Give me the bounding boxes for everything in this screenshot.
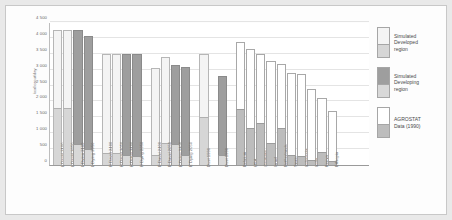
legend-label-line: region	[394, 46, 418, 52]
legend-item: AGROSTATData (1990)	[377, 107, 447, 138]
x-axis-tick-label: Dust 1990	[206, 148, 211, 167]
bar-segment-upper	[112, 54, 121, 153]
legend-label: SimulatedDevelopedregion	[394, 33, 418, 52]
bar: Ethiopia	[328, 111, 337, 165]
legend-swatch-lower	[377, 124, 390, 138]
gridline	[50, 53, 369, 54]
bar-segment-upper	[297, 74, 306, 157]
legend-swatch-upper	[377, 67, 390, 84]
y-axis-tick-label: 2 000	[36, 94, 47, 99]
bar: Israel	[266, 61, 275, 165]
bar: E Dying 2050	[181, 67, 190, 165]
chart-panel: kcal/caput/day 05001 0001 5002 0002 5003…	[5, 5, 447, 215]
legend-swatch	[377, 67, 390, 98]
bar-segment-upper	[73, 30, 82, 145]
legend-label: AGROSTATData (1990)	[394, 116, 421, 129]
bar: Belgium	[236, 42, 245, 165]
bar: H David 2050	[112, 54, 121, 165]
x-axis-tick-label: H Dying 2050	[139, 142, 144, 167]
legend-label-line: Data (1990)	[394, 123, 421, 129]
legend-swatch-lower	[377, 44, 390, 58]
bar: L David 2050	[63, 30, 72, 165]
bar: L Dying 2050	[84, 36, 93, 165]
legend-swatch-upper	[377, 27, 390, 44]
bar-segment-upper	[53, 30, 62, 108]
bar: Dust 1990	[199, 54, 208, 165]
bar: Dust 1990	[218, 76, 227, 165]
bar-segment-upper	[161, 57, 170, 143]
bar: Kenya	[317, 98, 326, 165]
bar: Indonesia	[297, 73, 306, 165]
x-axis-tick-label: L Dying 2050	[90, 142, 95, 167]
bar: H Dying 2100	[122, 54, 131, 165]
legend-swatch	[377, 27, 390, 58]
legend-swatch-upper	[377, 107, 390, 124]
x-axis-tick-label: E Dying 2050	[188, 142, 193, 167]
bar-segment-upper	[102, 54, 111, 153]
bar: H David 2100	[102, 54, 111, 165]
y-axis-tick-label: 4 500	[36, 15, 47, 20]
y-axis-tick-label: 3 500	[36, 46, 47, 51]
bar-segment-upper	[122, 54, 131, 154]
bar: H Dying 2050	[132, 54, 141, 165]
bar: India	[307, 89, 316, 165]
legend-label-line: region	[394, 86, 419, 92]
bar-segment-upper	[256, 54, 265, 122]
gridline	[50, 69, 369, 70]
bar: Netherlands	[277, 64, 286, 165]
bar-segment-upper	[199, 54, 208, 118]
y-axis-tick-label: 4 000	[36, 30, 47, 35]
y-axis-tick-label: 0	[45, 158, 47, 163]
bar-segment-upper	[287, 73, 296, 156]
bar-segment-upper	[307, 89, 316, 161]
y-axis-tick-label: 2 500	[36, 78, 47, 83]
bar: USA	[246, 49, 255, 165]
bar: L Dying 2100	[73, 30, 82, 165]
legend-label-line: AGROSTAT	[394, 116, 421, 122]
gridline	[50, 37, 369, 38]
legend-label-line: Developed	[394, 39, 418, 45]
bar: E David 2100	[151, 68, 160, 165]
plot-area: 05001 0001 5002 0002 5003 0003 5004 0004…	[49, 23, 369, 166]
legend-label: SimulatedDevelopingregion	[394, 73, 419, 92]
y-axis-tick-label: 1 500	[36, 110, 47, 115]
y-axis-tick-label: 500	[40, 142, 47, 147]
bar-segment-upper	[277, 64, 286, 129]
gridline	[50, 21, 369, 22]
bar: Germany	[256, 54, 265, 165]
bar: E David 2050	[161, 57, 170, 165]
bar-segment-upper	[171, 65, 180, 144]
legend-item: SimulatedDevelopedregion	[377, 27, 447, 58]
bar-segment-upper	[84, 36, 93, 149]
bar: L David 2100	[53, 30, 62, 165]
y-axis-tick-label: 1 000	[36, 126, 47, 131]
legend-swatch-lower	[377, 84, 390, 98]
bar-segment-upper	[317, 98, 326, 151]
legend-label-line: Developing	[394, 79, 419, 85]
bar-segment-upper	[266, 61, 275, 142]
bar-segment-upper	[246, 49, 255, 127]
bar: E Dying 2100	[171, 65, 180, 165]
gridline	[50, 85, 369, 86]
bar-segment-upper	[218, 76, 227, 155]
x-axis-tick-label: Ethiopia	[334, 152, 339, 167]
bar-segment-upper	[236, 42, 245, 109]
y-axis-tick-label: 3 000	[36, 62, 47, 67]
bar: Spain	[287, 73, 296, 165]
legend-item: SimulatedDevelopingregion	[377, 67, 447, 98]
chart-legend: SimulatedDevelopedregionSimulatedDevelop…	[377, 27, 447, 147]
legend-swatch	[377, 107, 390, 138]
bar-segment-upper	[63, 30, 72, 108]
x-axis-tick-label: Dust 1990	[224, 148, 229, 167]
